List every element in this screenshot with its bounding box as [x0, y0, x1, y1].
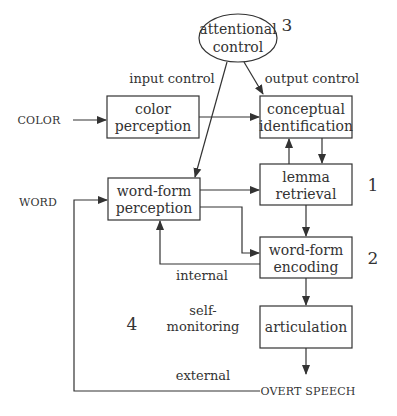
word-form-perception-node: word-form perception	[108, 178, 200, 220]
attentional-control-number: 3	[282, 15, 293, 35]
self-monitoring-number: 4	[127, 314, 138, 334]
lemma-retrieval-node: lemma retrieval	[260, 164, 352, 205]
articulation-label: articulation	[265, 319, 347, 335]
internal-label: internal	[176, 268, 228, 283]
color-perception-label-line1: color	[135, 101, 171, 117]
articulation-node: articulation	[260, 306, 352, 348]
lemma-retrieval-label-line1: lemma	[282, 169, 330, 185]
arrow-internal-loop	[160, 221, 260, 264]
conceptual-identification-node: conceptual identification	[259, 96, 353, 138]
word-form-encoding-number: 2	[368, 248, 379, 268]
word-form-perception-label-line2: perception	[116, 200, 193, 216]
color-perception-node: color perception	[107, 96, 199, 138]
lemma-retrieval-label-line2: retrieval	[276, 186, 337, 202]
arrow-external-loop	[74, 200, 260, 391]
attentional-control-node: attentional control	[199, 14, 277, 62]
word-form-encoding-label-line1: word-form	[269, 242, 343, 258]
self-monitoring-label-line2: monitoring	[167, 319, 240, 334]
external-label: external	[176, 368, 230, 383]
arrow-wfp-to-encoding	[200, 207, 259, 253]
arrow-attention-output-control	[244, 62, 263, 94]
lemma-retrieval-number: 1	[368, 175, 379, 195]
conceptual-identification-label-line2: identification	[259, 118, 353, 134]
overt-speech-label: OVERT SPEECH	[260, 385, 355, 398]
attentional-control-label-line1: attentional	[199, 21, 277, 37]
word-form-perception-label-line1: word-form	[117, 183, 191, 199]
word-form-encoding-node: word-form encoding	[260, 237, 352, 278]
conceptual-identification-label-line1: conceptual	[267, 101, 345, 117]
input-control-label: input control	[129, 71, 214, 86]
attentional-control-label-line2: control	[213, 39, 264, 55]
color-input-label: COLOR	[17, 114, 61, 127]
word-input-label: WORD	[19, 196, 57, 209]
self-monitoring-label-line1: self-	[189, 303, 216, 318]
output-control-label: output control	[265, 71, 359, 86]
diagram-canvas: attentional control 3 input control outp…	[0, 0, 397, 416]
color-perception-label-line2: perception	[115, 118, 192, 134]
word-form-encoding-label-line2: encoding	[274, 259, 339, 275]
